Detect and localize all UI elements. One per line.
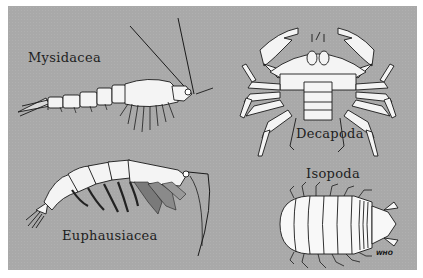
label-isopoda: Isopoda — [306, 166, 360, 181]
label-mysidacea: Mysidacea — [28, 50, 101, 65]
label-euphausiacea: Euphausiacea — [62, 228, 158, 243]
mysid-drawing — [18, 18, 213, 132]
illustration-plate: Mysidacea Decapoda Euphausiacea Isopoda … — [8, 6, 417, 270]
artist-signature: WHO — [376, 249, 393, 256]
label-decapoda: Decapoda — [296, 126, 364, 141]
